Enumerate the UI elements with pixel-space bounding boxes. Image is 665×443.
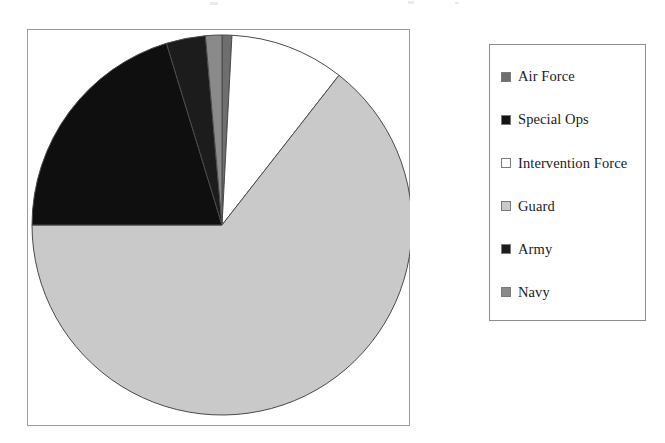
legend-item[interactable]: Special Ops — [501, 110, 641, 130]
legend-item-label: Army — [518, 242, 552, 257]
legend-item-label: Guard — [518, 199, 555, 214]
legend-item[interactable]: Guard — [501, 196, 641, 216]
legend-swatch-icon — [501, 201, 511, 211]
legend-item[interactable]: Intervention Force — [501, 153, 641, 173]
legend-item[interactable]: Army — [501, 239, 641, 259]
legend-item-label: Intervention Force — [518, 156, 627, 171]
pie-chart-figure: Air ForceSpecial OpsIntervention ForceGu… — [0, 0, 665, 443]
scan-speckle — [408, 1, 414, 4]
legend-item-label: Air Force — [518, 69, 575, 84]
legend-items-list: Air ForceSpecial OpsIntervention ForceGu… — [501, 55, 641, 314]
legend-item-label: Special Ops — [518, 112, 589, 127]
legend-item[interactable]: Air Force — [501, 67, 641, 87]
legend-swatch-icon — [501, 244, 511, 254]
legend-swatch-icon — [501, 158, 511, 168]
scan-speckle — [455, 2, 459, 4]
legend-swatch-icon — [501, 287, 511, 297]
legend-item-label: Navy — [518, 285, 550, 300]
pie-slice-group — [32, 35, 410, 415]
scan-speckle — [210, 2, 218, 5]
pie-chart-graphic — [27, 29, 410, 426]
legend-swatch-icon — [501, 72, 511, 82]
legend-swatch-icon — [501, 115, 511, 125]
legend-panel: Air ForceSpecial OpsIntervention ForceGu… — [489, 44, 646, 321]
legend-item[interactable]: Navy — [501, 282, 641, 302]
